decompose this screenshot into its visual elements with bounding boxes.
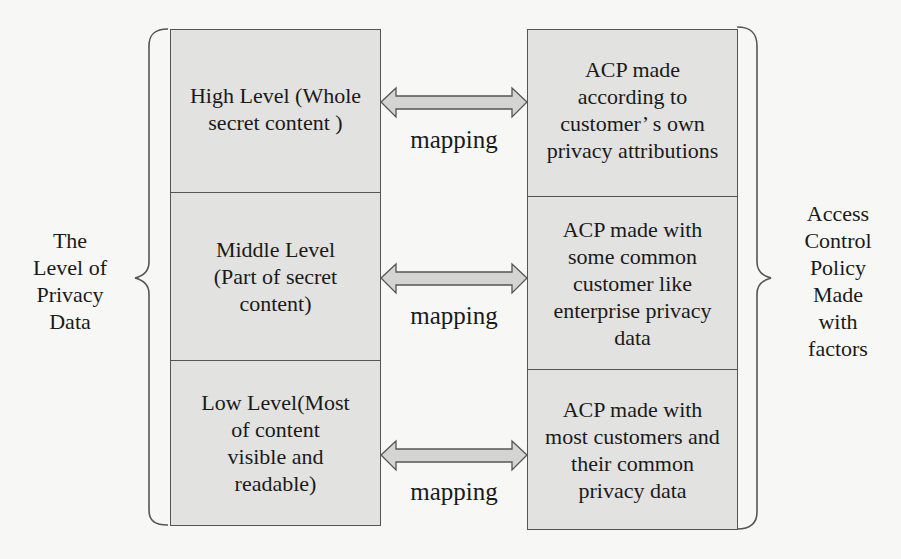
level-text: readable) bbox=[201, 470, 349, 497]
level-middle: Middle Level (Part of secret content) bbox=[171, 192, 380, 360]
level-text: High Level (Whole bbox=[190, 82, 361, 109]
policy-text: customer’ s own bbox=[547, 110, 719, 137]
label-line: Control bbox=[778, 227, 898, 254]
level-text: content) bbox=[214, 290, 337, 317]
policy-text: ACP made with bbox=[545, 396, 720, 423]
policy-text: most customers and bbox=[545, 423, 720, 450]
right-brace-icon bbox=[737, 27, 771, 529]
policy-text: ACP made with bbox=[553, 216, 711, 243]
policy-text: privacy attributions bbox=[547, 137, 719, 164]
level-text: secret content ) bbox=[190, 109, 361, 136]
policy-text: privacy data bbox=[545, 477, 720, 504]
policy-low: ACP made with most customers and their c… bbox=[528, 369, 737, 529]
label-line: with bbox=[778, 308, 898, 335]
privacy-level-box: High Level (Whole secret content ) Middl… bbox=[170, 29, 381, 526]
policy-text: enterprise privacy bbox=[553, 297, 711, 324]
level-text: of content bbox=[201, 416, 349, 443]
level-text: Low Level(Most bbox=[201, 389, 349, 416]
label-line: factors bbox=[778, 335, 898, 362]
policy-text: some common bbox=[553, 243, 711, 270]
label-line: Made bbox=[778, 281, 898, 308]
mapping-arrow-icon bbox=[381, 88, 527, 117]
label-line: Privacy bbox=[20, 281, 120, 308]
level-text: (Part of secret bbox=[214, 263, 337, 290]
label-line: Access bbox=[778, 200, 898, 227]
policy-text: customer like bbox=[553, 270, 711, 297]
level-text: Middle Level bbox=[214, 236, 337, 263]
mapping-label: mapping bbox=[374, 126, 534, 154]
right-group-label: Access Control Policy Made with factors bbox=[778, 200, 898, 362]
level-low: Low Level(Most of content visible and re… bbox=[171, 360, 380, 525]
level-high: High Level (Whole secret content ) bbox=[171, 30, 380, 192]
mapping-label: mapping bbox=[374, 478, 534, 506]
label-line: Policy bbox=[778, 254, 898, 281]
policy-text: their common bbox=[545, 450, 720, 477]
diagram-overlay bbox=[0, 0, 901, 559]
label-line: Data bbox=[20, 308, 120, 335]
policy-text: data bbox=[553, 324, 711, 351]
mapping-arrow-icon bbox=[381, 441, 527, 470]
policy-text: ACP made bbox=[547, 56, 719, 83]
label-line: The bbox=[20, 227, 120, 254]
policy-middle: ACP made with some common customer like … bbox=[528, 196, 737, 369]
label-line: Level of bbox=[20, 254, 120, 281]
policy-text: according to bbox=[547, 83, 719, 110]
access-policy-box: ACP made according to customer’ s own pr… bbox=[527, 29, 738, 530]
left-brace-icon bbox=[135, 29, 168, 525]
level-text: visible and bbox=[201, 443, 349, 470]
mapping-arrow-icon bbox=[381, 264, 527, 293]
mapping-label: mapping bbox=[374, 302, 534, 330]
left-group-label: The Level of Privacy Data bbox=[20, 227, 120, 335]
policy-high: ACP made according to customer’ s own pr… bbox=[528, 30, 737, 196]
